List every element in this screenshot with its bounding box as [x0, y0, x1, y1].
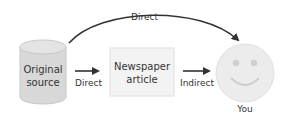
source-label-line1: Original	[20, 63, 66, 76]
edge-label-top: Direct	[131, 12, 158, 22]
article-label: Newspaper article	[110, 60, 174, 86]
article-label-line2: article	[110, 73, 174, 86]
you-label: You	[230, 104, 260, 114]
smiley-face-icon	[216, 44, 274, 102]
edge-label-article-you: Indirect	[180, 78, 214, 88]
article-label-line1: Newspaper	[110, 60, 174, 73]
source-label-line2: source	[20, 76, 66, 89]
edge-label-source-article: Direct	[75, 78, 102, 88]
source-label: Original source	[20, 63, 66, 89]
